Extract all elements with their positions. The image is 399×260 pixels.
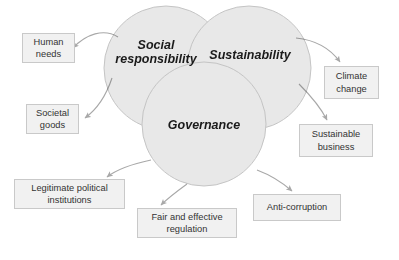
node-box-human-needs: Human needs — [22, 33, 75, 63]
arrow-to-legitimate — [107, 160, 151, 177]
node-box-anti-corruption: Anti-corruption — [253, 194, 341, 221]
node-box-fair-and-effective-regulation: Fair and effective regulation — [137, 208, 237, 238]
node-box-legitimate-political-institutions: Legitimate political institutions — [14, 179, 125, 209]
node-box-sustainable-business: Sustainable business — [299, 124, 373, 157]
arrow-to-fair-regulation — [161, 184, 187, 205]
arrow-to-anti-corruption — [257, 170, 292, 191]
venn-circles — [104, 6, 311, 186]
venn-diagram: Social responsibility Sustainability Gov… — [0, 0, 399, 260]
node-box-societal-goods: Societal goods — [26, 104, 79, 134]
circle-governance — [142, 62, 266, 186]
node-box-climate-change: Climate change — [324, 66, 379, 99]
